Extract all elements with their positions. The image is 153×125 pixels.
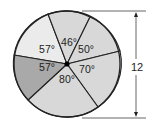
angle-label: 57° [39, 61, 55, 73]
diameter-label: 12 [131, 61, 143, 73]
angle-label: 50° [78, 43, 94, 55]
center-point [64, 61, 69, 66]
angle-label: 57° [39, 43, 55, 55]
angle-label: 46° [61, 36, 77, 48]
angle-label: 70° [79, 63, 95, 75]
arrowhead-down-icon [134, 112, 138, 117]
arrowhead-up-icon [134, 12, 138, 17]
angle-label: 80° [59, 73, 75, 85]
circle-sector-diagram: 57°46°50°70°80°57° 12 [0, 0, 153, 125]
